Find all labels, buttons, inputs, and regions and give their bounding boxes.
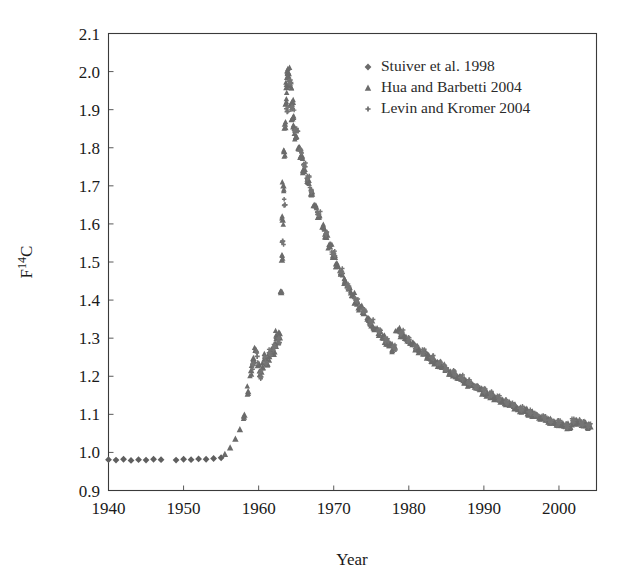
x-tick-label: 1970 bbox=[317, 499, 351, 518]
y-tick-label: 1.2 bbox=[79, 367, 100, 386]
legend-label-2: Levin and Kromer 2004 bbox=[381, 99, 531, 116]
legend-label-0: Stuiver et al. 1998 bbox=[381, 57, 495, 74]
x-tick-label: 1940 bbox=[92, 499, 126, 518]
chart-canvas: 0.91.01.11.21.31.41.51.61.71.81.92.02.1 … bbox=[0, 0, 624, 585]
legend-label-1: Hua and Barbetti 2004 bbox=[381, 78, 522, 95]
y-tick-label: 1.7 bbox=[79, 177, 101, 196]
y-tick-label: 1.0 bbox=[79, 443, 100, 462]
y-tick-label: 1.9 bbox=[79, 101, 100, 120]
x-tick-label: 1950 bbox=[167, 499, 201, 518]
y-tick-label: 2.1 bbox=[79, 25, 100, 44]
y-tick-label: 1.4 bbox=[79, 291, 101, 310]
y-tick-label: 1.6 bbox=[79, 215, 100, 234]
x-tick-label: 1960 bbox=[242, 499, 276, 518]
x-tick-label: 1990 bbox=[467, 499, 501, 518]
y-tick-label: 1.3 bbox=[79, 329, 100, 348]
y-tick-label: 1.5 bbox=[79, 253, 100, 272]
y-tick-label: 1.1 bbox=[79, 405, 100, 424]
x-tick-label: 2000 bbox=[542, 499, 576, 518]
radiocarbon-bomb-pulse-chart: 0.91.01.11.21.31.41.51.61.71.81.92.02.1 … bbox=[0, 0, 624, 585]
y-tick-label: 1.8 bbox=[79, 139, 100, 158]
x-tick-label: 1980 bbox=[392, 499, 426, 518]
y-tick-label: 2.0 bbox=[79, 63, 100, 82]
x-axis-title: Year bbox=[336, 550, 368, 569]
